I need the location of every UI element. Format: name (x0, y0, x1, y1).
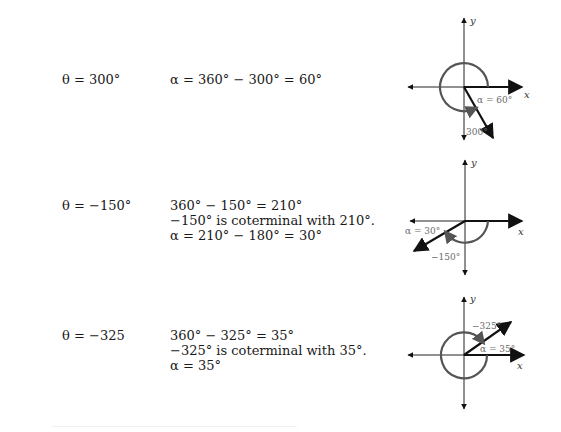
x-label: x (518, 226, 524, 237)
diagram-neg150: x y α = 30° −150° (405, 157, 524, 275)
ref-angle-label: α = 60° (477, 95, 512, 105)
rotation-arc (447, 221, 488, 243)
angle-label: 300° (466, 127, 488, 137)
angle-label: −150° (431, 252, 460, 262)
divider (52, 426, 297, 427)
y-label: y (469, 15, 476, 26)
angle-label: −325° (472, 321, 501, 331)
y-label: y (469, 293, 476, 304)
ref-angle-label: α = 35° (480, 344, 515, 354)
diagram-300: x y α = 60° 300° (408, 15, 530, 140)
angle-diagrams: x y α = 60° 300° x y α = 30° −150° x y α… (0, 0, 561, 432)
x-label: x (524, 89, 530, 100)
y-label: y (470, 157, 477, 168)
x-label: x (517, 360, 523, 371)
diagram-neg325: x y α = 35° −325° (408, 293, 524, 409)
ref-angle-label: α = 30° (405, 226, 440, 236)
